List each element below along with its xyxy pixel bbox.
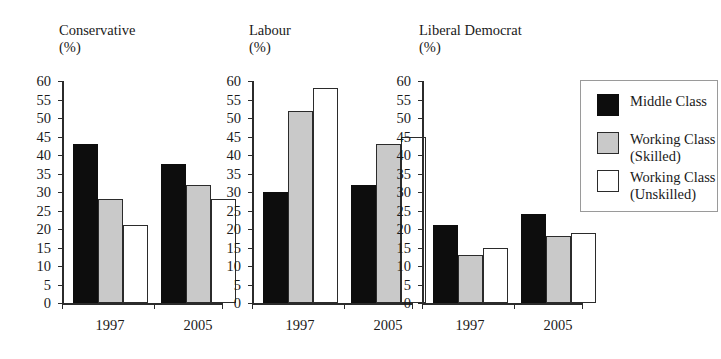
y-tick-label: 40 bbox=[227, 148, 242, 163]
bar-working-class-skilled bbox=[288, 111, 313, 303]
legend-item-middle-class: Middle Class bbox=[597, 93, 707, 116]
y-tick-label: 35 bbox=[37, 166, 52, 181]
panel-title-text: Labour bbox=[249, 22, 291, 39]
x-tick-label: 1997 bbox=[435, 317, 505, 334]
y-tick-label: 15 bbox=[227, 240, 242, 255]
x-tick-label: 1997 bbox=[265, 317, 335, 334]
panel-unit-label: (%) bbox=[249, 39, 291, 56]
panel-title-conservative: Conservative (%) bbox=[59, 22, 136, 56]
chart-canvas: Conservative (%) 60 55 50 45 40 35 30 25… bbox=[0, 0, 721, 359]
bar-middle-class bbox=[263, 192, 288, 303]
legend-swatch-working-class-skilled bbox=[597, 132, 619, 154]
y-tick-label: 45 bbox=[37, 129, 52, 144]
y-tick-label: 10 bbox=[37, 259, 52, 274]
panel-unit-label: (%) bbox=[419, 39, 522, 56]
x-axis bbox=[422, 303, 582, 305]
y-tick-label: 45 bbox=[227, 129, 242, 144]
panel-title-text: Liberal Democrat bbox=[419, 22, 522, 39]
bar-working-class-skilled bbox=[546, 236, 571, 303]
y-tick-label: 25 bbox=[397, 203, 412, 218]
x-tick bbox=[154, 303, 155, 309]
bar-middle-class bbox=[433, 225, 458, 303]
legend-swatch-middle-class bbox=[597, 94, 619, 116]
bar-working-class-unskilled bbox=[571, 233, 596, 303]
y-tick-label: 15 bbox=[37, 240, 52, 255]
y-tick-label: 55 bbox=[37, 92, 52, 107]
y-tick-label: 35 bbox=[397, 166, 412, 181]
legend-label-line1: Working Class bbox=[630, 131, 715, 147]
legend: Middle Class Working Class (Skilled) Wor… bbox=[580, 80, 718, 212]
panel-title-labour: Labour (%) bbox=[249, 22, 291, 56]
legend-label-line1: Middle Class bbox=[630, 93, 707, 109]
y-tick-label: 50 bbox=[37, 111, 52, 126]
y-tick-label: 40 bbox=[37, 148, 52, 163]
y-tick-label: 0 bbox=[234, 296, 241, 311]
y-tick-label: 60 bbox=[37, 74, 52, 89]
y-tick-label: 50 bbox=[397, 111, 412, 126]
y-tick-label: 10 bbox=[227, 259, 242, 274]
y-tick-label: 30 bbox=[397, 185, 412, 200]
y-tick-label: 0 bbox=[404, 296, 411, 311]
y-tick-label: 5 bbox=[44, 277, 51, 292]
bar-working-class-unskilled bbox=[483, 248, 508, 304]
y-tick-label: 55 bbox=[397, 92, 412, 107]
panel-title-liberal-democrat: Liberal Democrat (%) bbox=[419, 22, 522, 56]
x-tick bbox=[252, 303, 253, 309]
y-tick-label: 45 bbox=[397, 129, 412, 144]
y-tick-label: 30 bbox=[37, 185, 52, 200]
bar-middle-class bbox=[521, 214, 546, 303]
legend-label-working-class-unskilled: Working Class (Unskilled) bbox=[630, 169, 715, 203]
y-tick-label: 25 bbox=[227, 203, 242, 218]
x-tick bbox=[582, 303, 583, 309]
x-tick bbox=[62, 303, 63, 309]
y-tick-label: 60 bbox=[397, 74, 412, 89]
bar-working-class-unskilled bbox=[123, 225, 148, 303]
y-tick-label: 5 bbox=[404, 277, 411, 292]
x-tick-label: 2005 bbox=[523, 317, 593, 334]
legend-item-working-class-unskilled: Working Class (Unskilled) bbox=[597, 169, 715, 203]
y-tick-label: 10 bbox=[397, 259, 412, 274]
bar-working-class-unskilled bbox=[313, 88, 338, 303]
legend-label-line2: (Unskilled) bbox=[630, 186, 715, 203]
panel-liberal-democrat: Liberal Democrat (%) 60 55 50 45 40 35 3… bbox=[340, 0, 580, 359]
y-tick-label: 15 bbox=[397, 240, 412, 255]
y-tick-label: 40 bbox=[397, 148, 412, 163]
panel-title-text: Conservative bbox=[59, 22, 136, 39]
bar-working-class-skilled bbox=[458, 255, 483, 303]
x-tick bbox=[514, 303, 515, 309]
y-tick-label: 50 bbox=[227, 111, 242, 126]
y-tick-label: 5 bbox=[234, 277, 241, 292]
y-tick-label: 30 bbox=[227, 185, 242, 200]
legend-label-working-class-skilled: Working Class (Skilled) bbox=[630, 131, 715, 165]
legend-label-line2: (Skilled) bbox=[630, 148, 715, 165]
y-tick-label: 25 bbox=[37, 203, 52, 218]
x-tick bbox=[422, 303, 423, 309]
y-tick-label: 20 bbox=[227, 222, 242, 237]
plot-area-liberal-democrat: 60 55 50 45 40 35 30 25 20 15 10 5 0 bbox=[422, 81, 582, 305]
y-tick-label: 0 bbox=[44, 296, 51, 311]
panel-unit-label: (%) bbox=[59, 39, 136, 56]
y-tick-label: 20 bbox=[397, 222, 412, 237]
legend-swatch-working-class-unskilled bbox=[597, 170, 619, 192]
legend-label-middle-class: Middle Class bbox=[630, 93, 707, 110]
bar-middle-class bbox=[73, 144, 98, 303]
y-tick-label: 60 bbox=[227, 74, 242, 89]
y-tick-label: 20 bbox=[37, 222, 52, 237]
bar-working-class-skilled bbox=[98, 199, 123, 303]
legend-label-line1: Working Class bbox=[630, 169, 715, 185]
legend-item-working-class-skilled: Working Class (Skilled) bbox=[597, 131, 715, 165]
x-tick-label: 1997 bbox=[75, 317, 145, 334]
y-tick-label: 55 bbox=[227, 92, 242, 107]
y-tick-label: 35 bbox=[227, 166, 242, 181]
